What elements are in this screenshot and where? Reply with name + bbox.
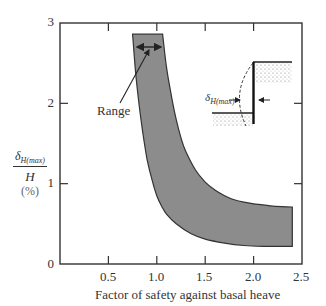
x-tick-label: 1.0 [141,269,171,285]
x-tick-label: 0.5 [93,269,123,285]
y-axis-label: δH(max) H (%) [8,146,52,199]
y-tick-label: 2 [40,95,54,111]
range-annotation: Range [97,103,130,119]
inset-deflection-label: δH(max) [205,91,235,106]
x-tick-label: 2.0 [238,269,268,285]
x-tick-label: 2.5 [286,269,316,285]
x-axis-label: Factor of safety against basal heave [95,287,280,303]
y-tick-label: 0 [40,256,54,272]
x-tick-label: 1.5 [189,269,219,285]
y-tick-label: 3 [40,14,54,30]
